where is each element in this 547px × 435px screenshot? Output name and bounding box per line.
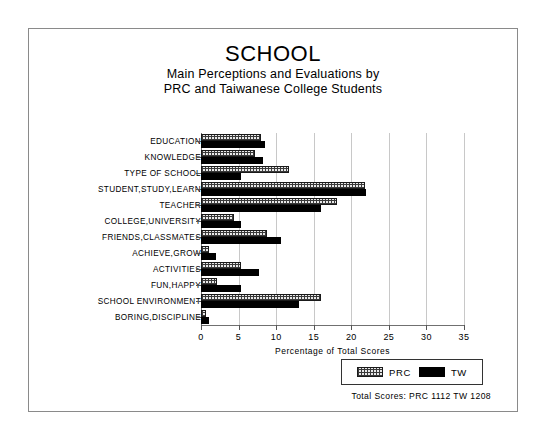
- bar-prc: [201, 310, 206, 317]
- totals-caption: Total Scores: PRC 1112 TW 1208: [291, 391, 491, 401]
- x-tick-label: 5: [236, 332, 241, 342]
- bar-tw: [201, 301, 299, 308]
- x-tick-mark: [351, 325, 352, 330]
- gridline: [351, 133, 352, 325]
- bar-prc: [201, 262, 241, 269]
- x-tick-mark: [239, 325, 240, 330]
- x-tick-mark: [201, 325, 202, 330]
- chart-plot-area: EDUCATIONKNOWLEDGETYPE OF SCHOOLSTUDENT,…: [29, 29, 519, 413]
- x-tick-label: 15: [308, 332, 319, 342]
- bar-tw: [201, 269, 259, 276]
- gridline: [464, 133, 465, 325]
- category-label: TYPE OF SCHOOL: [51, 169, 201, 178]
- category-label: ACTIVITIES: [51, 265, 201, 274]
- legend-item-tw: TW: [419, 367, 467, 378]
- bar-prc: [201, 278, 217, 285]
- chart-legend: PRC TW: [341, 359, 483, 385]
- x-tick-label: 10: [271, 332, 282, 342]
- bar-tw: [201, 189, 366, 196]
- category-label: FUN,HAPPY: [51, 281, 201, 290]
- x-tick-mark: [426, 325, 427, 330]
- bar-prc: [201, 198, 337, 205]
- bar-prc: [201, 294, 321, 301]
- bar-prc: [201, 150, 255, 157]
- bar-tw: [201, 317, 209, 324]
- bar-tw: [201, 221, 241, 228]
- bar-prc: [201, 246, 209, 253]
- solid-black-swatch-icon: [419, 367, 445, 377]
- x-tick-mark: [464, 325, 465, 330]
- category-label: FRIENDS,CLASSMATES: [51, 233, 201, 242]
- category-label: EDUCATION: [51, 137, 201, 146]
- bar-tw: [201, 141, 265, 148]
- category-label: SCHOOL ENVIRONMENT: [51, 297, 201, 306]
- bar-tw: [201, 253, 216, 260]
- bar-tw: [201, 237, 281, 244]
- gridline: [389, 133, 390, 325]
- bar-tw: [201, 285, 241, 292]
- hatched-swatch-icon: [357, 367, 383, 377]
- x-tick-label: 30: [421, 332, 432, 342]
- legend-item-prc: PRC: [357, 367, 411, 378]
- x-tick-label: 20: [346, 332, 357, 342]
- bar-prc: [201, 166, 289, 173]
- category-label: KNOWLEDGE: [51, 153, 201, 162]
- x-tick-label: 25: [383, 332, 394, 342]
- legend-label-tw: TW: [451, 367, 467, 378]
- bar-prc: [201, 182, 365, 189]
- category-label: BORING,DISCIPLINE: [51, 313, 201, 322]
- chart-frame: SCHOOL Main Perceptions and Evaluations …: [28, 28, 518, 412]
- bar-tw: [201, 173, 241, 180]
- legend-label-prc: PRC: [389, 367, 411, 378]
- chart-axes: 05101520253035 Percentage of Total Score…: [201, 133, 491, 325]
- bar-prc: [201, 230, 267, 237]
- bar-tw: [201, 157, 263, 164]
- x-tick-mark: [276, 325, 277, 330]
- x-tick-mark: [314, 325, 315, 330]
- bar-tw: [201, 205, 321, 212]
- x-axis-label: Percentage of Total Scores: [201, 346, 464, 356]
- gridline: [426, 133, 427, 325]
- category-label: ACHIEVE,GROW: [51, 249, 201, 258]
- category-label: TEACHER: [51, 201, 201, 210]
- x-tick-label: 0: [198, 332, 203, 342]
- x-axis-line: [201, 325, 464, 326]
- x-tick-mark: [389, 325, 390, 330]
- x-tick-label: 35: [459, 332, 470, 342]
- bar-prc: [201, 214, 234, 221]
- category-label: STUDENT,STUDY,LEARN: [51, 185, 201, 194]
- bar-prc: [201, 134, 261, 141]
- category-label: COLLEGE,UNIVERSITY: [51, 217, 201, 226]
